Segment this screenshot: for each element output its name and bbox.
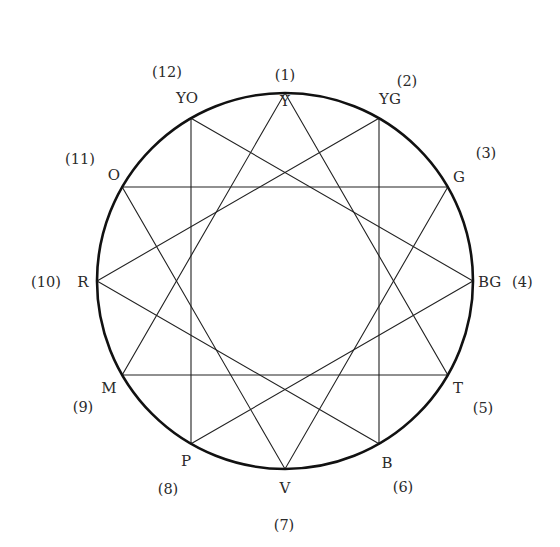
color-label: P xyxy=(181,452,191,470)
color-label: O xyxy=(108,166,120,184)
index-label: (2) xyxy=(397,73,418,89)
index-label: (11) xyxy=(65,151,95,167)
index-label: (3) xyxy=(476,145,497,161)
index-label: (6) xyxy=(393,479,414,495)
color-label: YO xyxy=(175,89,198,107)
color-label: BG xyxy=(478,273,501,291)
color-label: Y xyxy=(279,92,291,110)
color-label: V xyxy=(279,479,292,497)
color-label: T xyxy=(453,379,463,397)
index-label: (10) xyxy=(31,274,61,290)
color-circle-diagram: Y(1)YG(2)G(3)BG(4)T(5)B(6)V(7)P(8)M(9)R(… xyxy=(0,0,560,547)
index-label: (1) xyxy=(275,67,296,83)
index-label: (4) xyxy=(512,274,533,290)
index-label: (5) xyxy=(473,400,494,416)
color-label: R xyxy=(77,273,89,291)
index-label: (12) xyxy=(152,64,182,80)
color-label: G xyxy=(453,168,465,186)
color-label: B xyxy=(381,454,392,472)
point-r: R(10) xyxy=(31,273,89,291)
color-label: YG xyxy=(378,90,401,108)
index-label: (9) xyxy=(73,399,94,415)
index-label: (7) xyxy=(274,517,295,533)
index-label: (8) xyxy=(158,481,179,497)
color-label: M xyxy=(101,379,116,397)
